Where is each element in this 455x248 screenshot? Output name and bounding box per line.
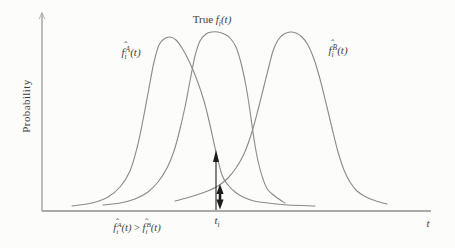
t-i-tick-label: ti [214,215,219,228]
curve-a-label: fˆiA(t) [121,46,140,60]
figure-canvas: Probability True fi(t) fˆiA(t) fˆiB(t) t… [0,0,455,248]
thin-arrow-head [213,150,219,162]
curve-estimate-B [175,32,387,204]
bold-arrow-down-head [216,200,223,210]
inequality-caption: fˆiA(t) > fˆiB(t) [113,222,161,236]
x-axis-label: t [426,218,429,229]
true-curve-label: True fi(t) [193,14,232,27]
distribution-plot [0,0,455,248]
bold-arrow-up-head [216,184,223,194]
curve-b-label: fˆiB(t) [328,44,347,58]
y-axis-label: Probability [21,79,32,132]
